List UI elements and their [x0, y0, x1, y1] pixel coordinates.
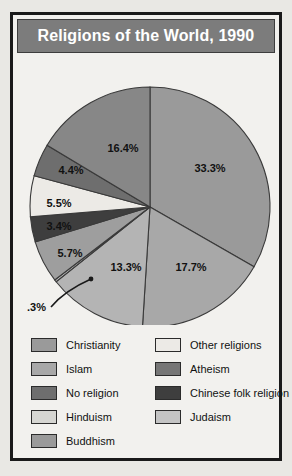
pie-slice-value-label: 3.4%: [46, 220, 71, 232]
pie-chart-svg: [13, 57, 279, 325]
legend-item-label: Christianity: [66, 339, 120, 351]
pie-slice-value-label: 33.3%: [194, 162, 225, 174]
legend-item[interactable]: Hinduism: [31, 405, 120, 429]
legend-color-swatch: [31, 362, 57, 376]
legend: ChristianityIslamNo religionHinduismBudd…: [21, 333, 277, 455]
legend-item-label: Buddhism: [66, 435, 115, 447]
callout-value-label: .3%: [27, 301, 46, 313]
pie-slice-value-label: 16.4%: [107, 142, 138, 154]
page-title: Religions of the World, 1990: [38, 27, 255, 45]
legend-item[interactable]: Judaism: [155, 405, 289, 429]
legend-item-label: Other religions: [190, 339, 262, 351]
legend-item-label: No religion: [66, 387, 119, 399]
legend-color-swatch: [155, 410, 181, 424]
legend-item[interactable]: Buddhism: [31, 429, 120, 453]
legend-item[interactable]: No religion: [31, 381, 120, 405]
legend-color-swatch: [155, 338, 181, 352]
legend-item[interactable]: Islam: [31, 357, 120, 381]
pie-slice-value-label: 4.4%: [58, 164, 83, 176]
legend-item-label: Chinese folk religion: [190, 387, 289, 399]
legend-column-right: Other religionsAtheismChinese folk relig…: [155, 333, 289, 429]
pie-slice-value-label: 5.7%: [57, 247, 82, 259]
legend-item[interactable]: Christianity: [31, 333, 120, 357]
pie-slice-value-label: 17.7%: [175, 261, 206, 273]
legend-color-swatch: [155, 386, 181, 400]
legend-item[interactable]: Other religions: [155, 333, 289, 357]
chart-frame: Religions of the World, 1990 33.3%17.7%1…: [10, 12, 282, 461]
legend-item-label: Atheism: [190, 363, 230, 375]
pie-chart: [13, 57, 279, 325]
legend-color-swatch: [31, 386, 57, 400]
legend-item-label: Hinduism: [66, 411, 112, 423]
legend-color-swatch: [31, 338, 57, 352]
legend-color-swatch: [31, 434, 57, 448]
pie-slice-value-label: 5.5%: [46, 197, 71, 209]
callout-anchor-dot: [89, 277, 94, 282]
legend-column-left: ChristianityIslamNo religionHinduismBudd…: [31, 333, 120, 453]
legend-color-swatch: [155, 362, 181, 376]
legend-item[interactable]: Chinese folk religion: [155, 381, 289, 405]
legend-item-label: Islam: [66, 363, 92, 375]
legend-item[interactable]: Atheism: [155, 357, 289, 381]
pie-slice-value-label: 13.3%: [110, 261, 141, 273]
legend-color-swatch: [31, 410, 57, 424]
title-banner: Religions of the World, 1990: [17, 19, 275, 53]
legend-item-label: Judaism: [190, 411, 231, 423]
